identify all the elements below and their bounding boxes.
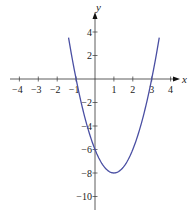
y-tick-label: 2 — [87, 50, 92, 61]
parabola-graph: −4−3−2−1123442−2−4−6−8−10 x y — [0, 0, 192, 212]
tick-labels: −4−3−2−1123442−2−4−6−8−10 — [12, 27, 173, 203]
y-axis-label: y — [95, 1, 101, 13]
y-tick-label: 4 — [87, 27, 92, 38]
x-tick-label: 1 — [111, 84, 116, 95]
y-tick-label: −6 — [81, 144, 92, 155]
axes — [10, 12, 180, 210]
x-tick-label: 4 — [168, 84, 173, 95]
y-tick-label: −10 — [76, 191, 92, 202]
y-tick-label: −8 — [81, 168, 92, 179]
x-tick-label: −4 — [12, 84, 23, 95]
x-tick-label: 2 — [130, 84, 135, 95]
y-tick-label: −2 — [81, 97, 92, 108]
x-tick-label: −3 — [31, 84, 42, 95]
x-axis-label: x — [181, 73, 187, 85]
x-tick-label: −2 — [50, 84, 61, 95]
